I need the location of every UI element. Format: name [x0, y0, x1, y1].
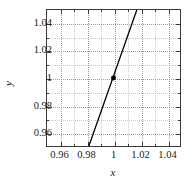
x-tick-label: 0.96 — [50, 150, 68, 161]
data-series-markers — [111, 76, 116, 81]
data-point-marker — [111, 76, 116, 81]
x-tick-label: 1 — [111, 150, 116, 161]
y-tick-label: 1.02 — [34, 45, 52, 56]
plot-area — [46, 9, 181, 147]
x-tick-label: 0.98 — [77, 150, 95, 161]
x-tick-label: 1.04 — [158, 150, 176, 161]
y-tick-label: 0.98 — [34, 100, 52, 111]
y-axis-label: y — [3, 81, 14, 86]
y-tick-label: 1.04 — [34, 18, 52, 29]
figure-plot: 0.960.9811.021.04 0.960.9811.021.04 x y — [0, 0, 194, 187]
y-tick-label: 0.96 — [34, 128, 52, 139]
x-axis-label: x — [111, 167, 116, 178]
x-tick-label: 1.02 — [131, 150, 149, 161]
data-layer — [47, 10, 180, 146]
y-tick-label: 1 — [47, 73, 52, 84]
